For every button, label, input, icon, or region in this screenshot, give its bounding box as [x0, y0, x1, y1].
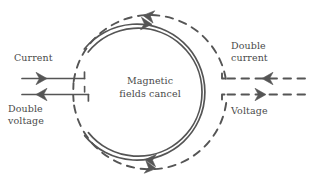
right-bottom-lead-elbow: [222, 95, 225, 100]
left-bottom-lead-line: [22, 95, 88, 102]
label-double-current: Double current: [231, 40, 268, 63]
diagram-canvas: Current Double voltage Double current Vo…: [0, 0, 312, 185]
label-voltage: Voltage: [231, 105, 268, 117]
label-magnetic-fields-cancel: Magnetic fields cancel: [104, 75, 196, 100]
label-current: Current: [14, 52, 53, 64]
label-double-voltage: Double voltage: [8, 103, 44, 126]
